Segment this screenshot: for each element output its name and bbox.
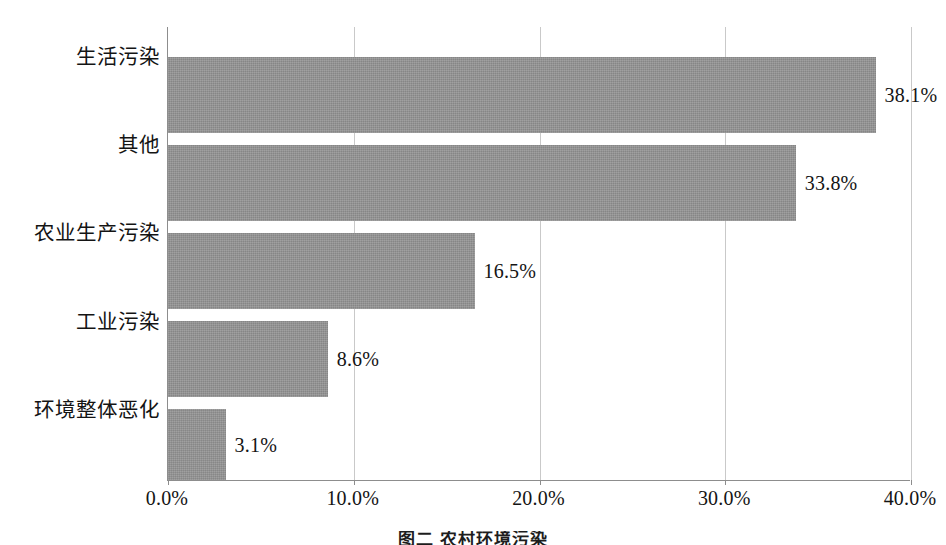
bar-value-label-0: 38.1% xyxy=(885,85,938,105)
bar-row[interactable]: 3.1% xyxy=(168,409,277,480)
bar-4[interactable] xyxy=(168,409,226,480)
bar-row[interactable]: 8.6% xyxy=(168,321,379,397)
tick-mark-30 xyxy=(725,480,726,485)
x-tick-label-4: 40.0% xyxy=(884,488,937,508)
category-label-3: 工业污染 xyxy=(0,312,160,333)
bar-1[interactable] xyxy=(168,145,796,221)
category-label-2: 农业生产污染 xyxy=(0,223,160,244)
category-label-1: 其他 xyxy=(0,135,160,156)
tick-mark-40 xyxy=(911,480,912,485)
bar-3[interactable] xyxy=(168,321,328,397)
tick-mark-20 xyxy=(540,480,541,485)
plot-area: 38.1% 33.8% 16.5% 8.6% 3.1% xyxy=(167,27,910,481)
x-tick-label-3: 30.0% xyxy=(698,488,751,508)
bar-row[interactable]: 33.8% xyxy=(168,145,857,221)
tick-mark-10 xyxy=(354,480,355,485)
bar-value-label-2: 16.5% xyxy=(484,261,537,281)
x-tick-label-0: 0.0% xyxy=(146,488,188,508)
x-tick-label-2: 20.0% xyxy=(512,488,565,508)
category-label-4: 环境整体恶化 xyxy=(0,400,160,421)
bar-2[interactable] xyxy=(168,233,475,309)
category-label-0: 生活污染 xyxy=(0,47,160,68)
tick-mark-0 xyxy=(168,480,169,485)
bar-value-label-3: 8.6% xyxy=(337,349,379,369)
category-axis: 生活污染 其他 农业生产污染 工业污染 环境整体恶化 xyxy=(0,27,160,481)
figure-caption: 图二 农村环境污染 xyxy=(0,531,946,545)
bar-value-label-4: 3.1% xyxy=(235,435,277,455)
bar-0[interactable] xyxy=(168,57,876,133)
bar-row[interactable]: 16.5% xyxy=(168,233,536,309)
x-axis: 0.0% 10.0% 20.0% 30.0% 40.0% xyxy=(0,488,946,520)
bar-value-label-1: 33.8% xyxy=(805,173,858,193)
bar-row[interactable]: 38.1% xyxy=(168,57,937,133)
bar-chart-figure: 生活污染 其他 农业生产污染 工业污染 环境整体恶化 38.1% 33.8% 1… xyxy=(0,0,946,545)
x-tick-label-1: 10.0% xyxy=(326,488,379,508)
